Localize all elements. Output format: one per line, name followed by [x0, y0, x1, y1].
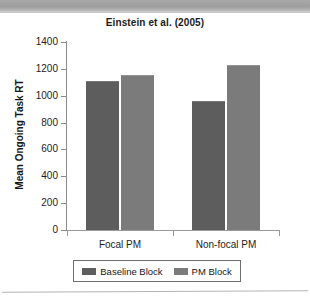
chart-figure: Einstein et al. (2005) Mean Ongoing Task…	[0, 11, 310, 291]
y-axis-tick-label: 1000	[0, 90, 58, 101]
x-axis-category-label: Focal PM	[70, 239, 170, 250]
legend-swatch-icon	[174, 268, 188, 275]
x-axis-tick	[173, 231, 174, 236]
chart-legend: Baseline BlockPM Block	[73, 260, 241, 282]
legend-label: PM Block	[192, 266, 232, 277]
legend-item-baseline-block: Baseline Block	[82, 266, 162, 277]
y-axis-tick-label: 600	[0, 143, 58, 154]
x-axis-category-label: Non-focal PM	[176, 239, 276, 250]
bar-non-focal-pm-baseline-block	[192, 101, 225, 230]
x-axis-tick	[279, 231, 280, 236]
y-axis-tick-label: 1400	[0, 36, 58, 47]
y-axis-tick-label: 800	[0, 117, 58, 128]
legend-item-pm-block: PM Block	[174, 266, 232, 277]
legend-swatch-icon	[82, 268, 96, 275]
y-axis-tick-label: 0	[0, 224, 58, 235]
x-axis-tick	[67, 231, 68, 236]
y-axis-tick-label: 1200	[0, 63, 58, 74]
chart-title: Einstein et al. (2005)	[0, 17, 310, 28]
scan-artifact-bottom-rule	[2, 290, 308, 292]
bar-focal-pm-baseline-block	[86, 81, 119, 230]
y-axis-tick-label: 400	[0, 170, 58, 181]
scan-artifact-top-bar	[0, 0, 310, 11]
bar-non-focal-pm-pm-block	[227, 65, 260, 230]
bar-focal-pm-pm-block	[121, 75, 154, 230]
plot-area	[67, 42, 279, 230]
legend-label: Baseline Block	[100, 266, 162, 277]
y-axis-title: Mean Ongoing Task RT	[14, 55, 25, 215]
y-axis-tick-label: 200	[0, 197, 58, 208]
